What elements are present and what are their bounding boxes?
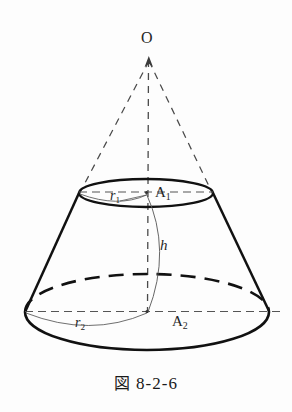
central-axis-dashed-line xyxy=(148,60,149,313)
top-radius-label-r1: r1 xyxy=(110,189,120,205)
bottom-circle-front-arc xyxy=(25,312,269,350)
figure-caption-number: 8-2-6 xyxy=(136,374,178,393)
apex-right-dashed-slant xyxy=(149,61,213,194)
top-center-symbol: A xyxy=(155,184,166,200)
frustum-diagram xyxy=(0,0,292,412)
bottom-center-label-A2: A2 xyxy=(172,314,188,331)
bottom-radius-subscript: 2 xyxy=(80,322,85,332)
bottom-circle-group xyxy=(25,274,283,350)
height-curve-leader xyxy=(147,194,160,312)
bottom-center-symbol: A xyxy=(172,313,183,329)
top-radius-pointer xyxy=(120,195,147,201)
right-slant-side xyxy=(213,193,269,311)
apex-label-O: O xyxy=(141,30,153,46)
top-center-point xyxy=(145,191,148,194)
left-slant-side xyxy=(26,193,80,311)
bottom-radius-arc-leader xyxy=(26,313,147,326)
height-leader-group xyxy=(147,194,160,312)
top-circle-group xyxy=(79,179,213,207)
top-center-subscript: 1 xyxy=(166,191,171,202)
frustum-sides-group xyxy=(26,193,270,311)
apex-left-dashed-slant xyxy=(80,61,150,194)
bottom-circle-back-arc-dashed xyxy=(25,274,269,312)
height-label-h: h xyxy=(160,238,168,253)
figure-container: O r1 A1 h r2 A2 図8-2-6 xyxy=(0,0,292,412)
top-center-label-A1: A1 xyxy=(155,185,171,202)
apex-extension-group xyxy=(80,61,213,194)
bottom-center-subscript: 2 xyxy=(183,320,188,331)
bottom-radius-label-r2: r2 xyxy=(75,316,85,332)
top-radius-subscript: 1 xyxy=(115,195,120,205)
figure-caption: 図8-2-6 xyxy=(0,370,292,394)
height-symbol: h xyxy=(160,237,168,253)
figure-caption-symbol: 図 xyxy=(114,374,131,393)
